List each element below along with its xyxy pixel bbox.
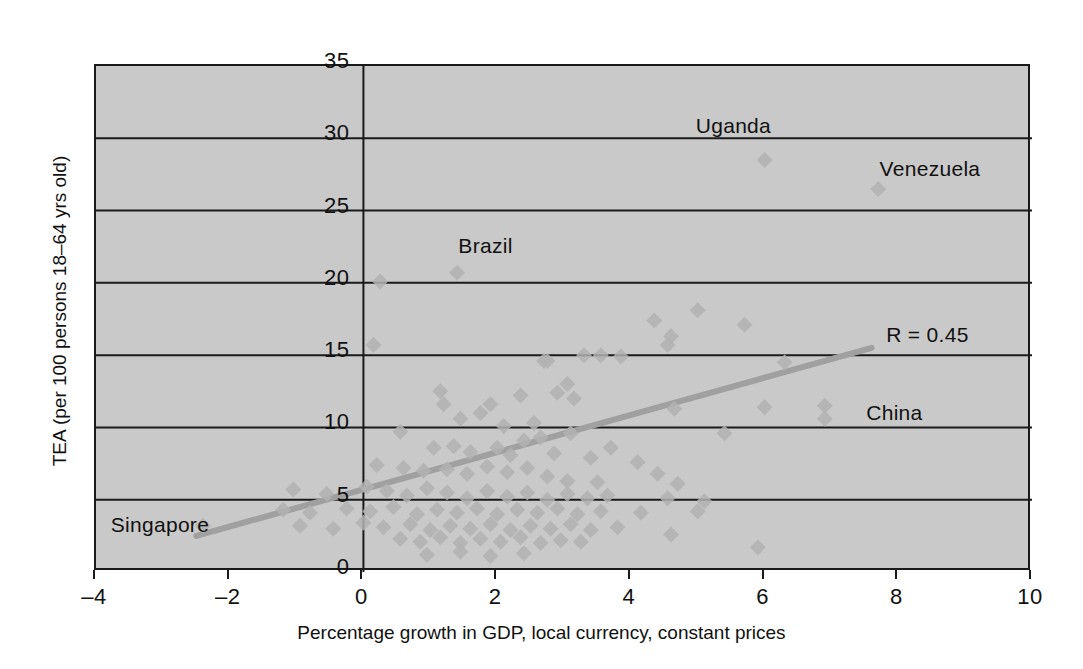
annotation-china: China — [866, 401, 922, 425]
x-axis-title: Percentage growth in GDP, local currency… — [0, 622, 1083, 644]
y-tick-label-0: 0 — [293, 554, 349, 580]
plot-area — [94, 64, 1030, 570]
x-tick-label-2: 2 — [465, 584, 525, 610]
x-tick-8 — [895, 570, 897, 579]
y-tick-label-20: 20 — [293, 265, 349, 291]
y-tick-label-15: 15 — [293, 337, 349, 363]
y-tick-label-35: 35 — [293, 48, 349, 74]
x-tick-4 — [628, 570, 630, 579]
scatter-chart-figure: TEA (per 100 persons 18–64 yrs old) 0510… — [0, 0, 1083, 669]
data-layer — [96, 66, 1032, 572]
x-tick-label-0: 0 — [331, 584, 391, 610]
y-tick-label-10: 10 — [293, 409, 349, 435]
x-tick-label-4: 4 — [599, 584, 659, 610]
x-tick--4 — [93, 570, 95, 579]
x-tick-10 — [1029, 570, 1031, 579]
annotation-r-0-45: R = 0.45 — [886, 323, 968, 347]
x-tick-6 — [762, 570, 764, 579]
annotation-singapore: Singapore — [111, 513, 209, 537]
y-tick-label-5: 5 — [293, 482, 349, 508]
x-tick-label-8: 8 — [866, 584, 926, 610]
y-tick-label-30: 30 — [293, 120, 349, 146]
x-tick--2 — [227, 570, 229, 579]
x-tick-label--2: –2 — [198, 584, 258, 610]
x-tick-0 — [360, 570, 362, 579]
annotation-venezuela: Venezuela — [880, 157, 981, 181]
y-axis-title: TEA (per 100 persons 18–64 yrs old) — [49, 101, 71, 521]
x-tick-label-10: 10 — [1000, 584, 1060, 610]
x-tick-label-6: 6 — [733, 584, 793, 610]
x-tick-label--4: –4 — [64, 584, 124, 610]
annotation-brazil: Brazil — [458, 234, 512, 258]
annotation-uganda: Uganda — [696, 114, 771, 138]
x-tick-2 — [494, 570, 496, 579]
y-tick-label-25: 25 — [293, 193, 349, 219]
